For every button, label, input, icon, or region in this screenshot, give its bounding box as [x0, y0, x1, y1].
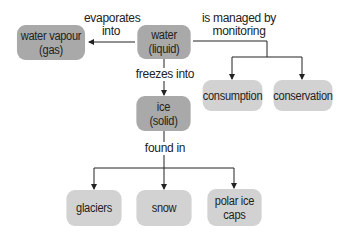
node-label: ice: [149, 100, 177, 114]
line-managed-by: [193, 41, 267, 57]
node-polar-ice-caps: polar ice caps: [207, 189, 261, 226]
edge-label-line: monitoring: [197, 25, 281, 38]
edge-label-line: found in: [145, 141, 185, 155]
node-label: (liquid): [149, 42, 180, 56]
node-snow: snow: [136, 190, 191, 226]
node-label: (gas): [21, 43, 82, 57]
edge-label-line: into: [84, 25, 138, 38]
edge-label-found-in: found in: [141, 142, 189, 155]
node-label: water vapour: [21, 29, 82, 43]
node-label: glaciers: [76, 201, 112, 215]
edge-label-managed-by: is managed by monitoring: [196, 12, 282, 38]
node-glaciers: glaciers: [66, 190, 121, 226]
node-label: snow: [152, 201, 177, 215]
node-label: consumption: [203, 89, 263, 103]
edge-label-evaporates-into: evaporates into: [83, 12, 139, 38]
concept-map: evaporates into is managed by monitoring…: [0, 0, 349, 237]
node-water: water (liquid): [137, 25, 190, 59]
node-label: water: [149, 28, 180, 42]
node-label: caps: [215, 208, 254, 222]
node-label: conservation: [273, 89, 332, 103]
node-ice: ice (solid): [136, 96, 190, 131]
node-consumption: consumption: [203, 80, 263, 111]
node-label: polar ice: [215, 194, 254, 208]
node-label: (solid): [149, 114, 177, 128]
edge-label-freezes-into: freezes into: [134, 68, 196, 81]
node-water-vapour: water vapour (gas): [17, 25, 85, 60]
edge-label-line: freezes into: [136, 67, 194, 81]
node-conservation: conservation: [274, 80, 333, 111]
